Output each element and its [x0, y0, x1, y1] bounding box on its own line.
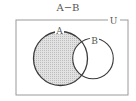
set-b-label: B	[91, 36, 98, 46]
universe-label: U	[110, 16, 118, 26]
set-a-label: A	[55, 26, 63, 36]
venn-diagram: A−B U A B	[0, 0, 136, 101]
diagram-title: A−B	[56, 2, 80, 13]
